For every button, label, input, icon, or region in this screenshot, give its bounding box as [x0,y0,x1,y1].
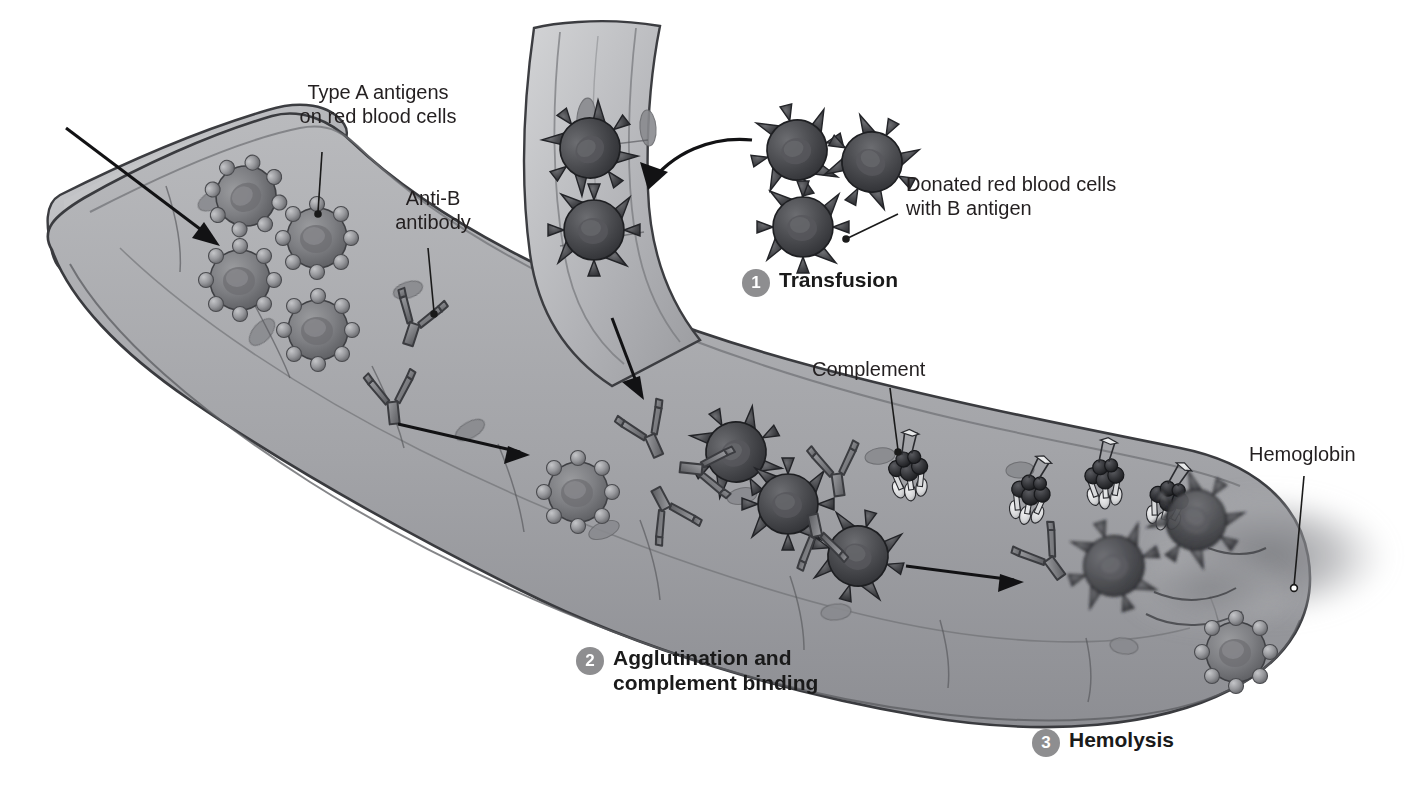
label-anti-b-antibody: Anti-B antibody [368,186,498,235]
recipient-red-blood-cell-with-a-antigen [1195,611,1278,694]
transfusion-reaction-figure: Type A antigens on red blood cells Anti-… [0,0,1412,799]
label-complement: Complement [812,357,1012,381]
recipient-red-blood-cell-with-a-antigen [537,451,620,534]
label-type-a-antigens: Type A antigens on red blood cells [258,80,498,129]
step-transfusion: 1 Transfusion [742,268,898,297]
step-badge-2: 2 [576,647,604,675]
label-donated-cells: Donated red blood cells with B antigen [906,172,1206,221]
leader-donated-cells [843,214,898,242]
step-badge-3: 3 [1032,729,1060,757]
recipient-red-blood-cell-with-a-antigen [276,197,359,280]
donated-red-blood-cell-with-b-antigen [757,181,849,273]
step-label-agglutination: Agglutination and complement binding [613,646,818,696]
step-agglutination: 2 Agglutination and complement binding [576,646,818,696]
donated-red-blood-cell-with-b-antigen [741,94,853,206]
recipient-red-blood-cell-with-a-antigen [277,289,360,372]
step-label-hemolysis: Hemolysis [1069,728,1174,753]
step-label-transfusion: Transfusion [779,268,898,293]
label-hemoglobin: Hemoglobin [1249,442,1412,466]
recipient-red-blood-cell-with-a-antigen [199,239,282,322]
step-hemolysis: 3 Hemolysis [1032,728,1174,757]
blood-vessel [48,21,1310,727]
step-badge-1: 1 [742,269,770,297]
transfusion-arrow [640,139,752,190]
